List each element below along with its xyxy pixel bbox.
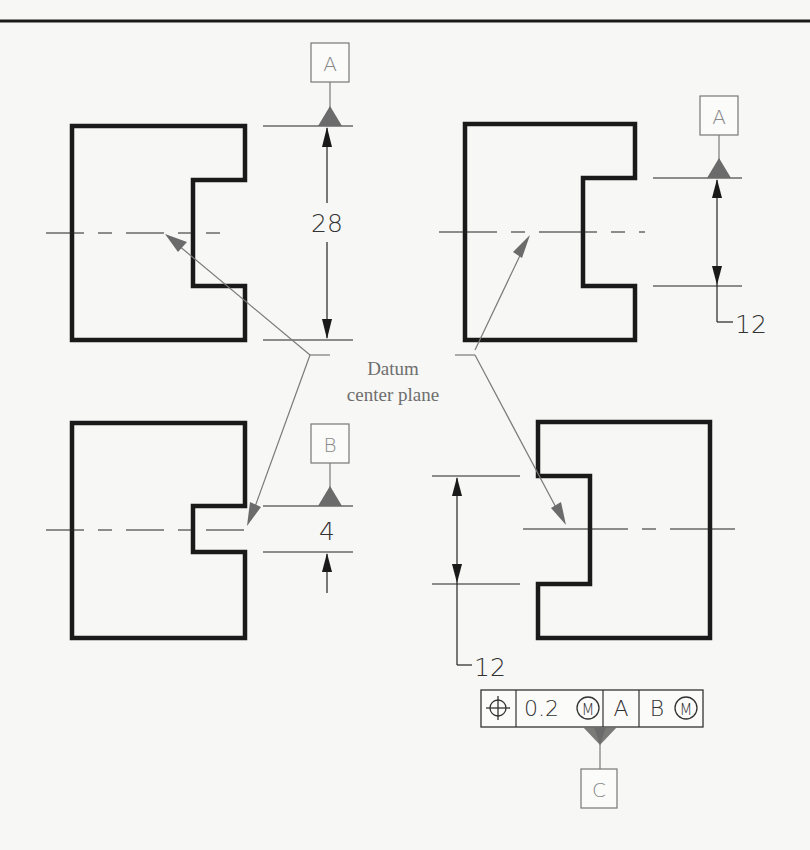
view-top-left: 28 A bbox=[46, 43, 353, 355]
dimension-value: 12 bbox=[735, 310, 767, 339]
datum-triangle-icon bbox=[318, 486, 342, 506]
callout-leader bbox=[475, 355, 560, 515]
dimension-value: 4 bbox=[319, 517, 335, 546]
callout-leader bbox=[475, 245, 525, 350]
datum-label: A bbox=[712, 105, 726, 129]
dimension-value: 12 bbox=[474, 653, 506, 682]
callout-line-2: center plane bbox=[347, 384, 439, 405]
datum-label: C bbox=[592, 778, 606, 802]
callout-arrowhead-icon bbox=[513, 235, 530, 258]
arrowhead-icon bbox=[712, 266, 722, 285]
svg-text:M: M bbox=[680, 701, 693, 719]
datum-label: B bbox=[323, 433, 336, 457]
arrowhead-icon bbox=[322, 319, 332, 339]
datum-triangle-icon bbox=[707, 158, 731, 178]
callout-leader bbox=[252, 355, 310, 515]
callout-line-1: Datum bbox=[367, 358, 419, 379]
arrowhead-icon bbox=[712, 179, 722, 198]
callout-arrowhead-icon bbox=[551, 502, 566, 525]
secondary-datum: B bbox=[650, 696, 664, 721]
svg-text:M: M bbox=[582, 701, 595, 719]
callout-arrowhead-icon bbox=[247, 502, 261, 526]
datum-triangle-icon bbox=[318, 106, 342, 126]
tolerance-value: 0.2 bbox=[524, 696, 559, 721]
datum-center-plane-callout: Datum center plane bbox=[310, 355, 475, 405]
view-bottom-right: 12 bbox=[432, 355, 735, 682]
arrowhead-icon bbox=[322, 127, 332, 147]
feature-control-frame: 0.2 M A B M C bbox=[481, 690, 703, 808]
part-outline bbox=[538, 422, 710, 638]
view-top-right: 12 A bbox=[439, 96, 767, 350]
arrowhead-icon bbox=[452, 477, 462, 496]
primary-datum: A bbox=[613, 696, 628, 721]
view-bottom-left: 4 B bbox=[46, 355, 353, 638]
arrowhead-icon bbox=[452, 564, 462, 583]
datum-label: A bbox=[323, 52, 337, 76]
drawing-canvas: 28 A 12 A Datum center plane bbox=[0, 0, 810, 850]
datum-triangle-icon bbox=[583, 727, 617, 745]
dimension-value: 28 bbox=[311, 209, 343, 238]
arrowhead-icon bbox=[322, 553, 332, 572]
